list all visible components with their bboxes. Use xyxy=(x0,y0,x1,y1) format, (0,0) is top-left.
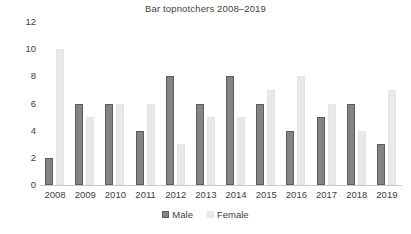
x-axis: 2008200920102011201220132014201520162017… xyxy=(40,188,402,204)
y-axis-tick-label: 4 xyxy=(0,126,36,136)
legend-swatch-male-icon xyxy=(162,211,169,218)
x-axis-tick-label: 2010 xyxy=(100,188,130,202)
x-axis-tick-label: 2015 xyxy=(251,188,281,202)
x-axis-tick-label: 2018 xyxy=(342,188,372,202)
bar-female-2011[interactable] xyxy=(147,104,155,186)
bar-male-2009[interactable] xyxy=(75,104,83,186)
bar-male-2012[interactable] xyxy=(166,76,174,185)
x-axis-tick-label: 2013 xyxy=(191,188,221,202)
bar-group xyxy=(221,22,251,185)
y-axis-tick-label: 8 xyxy=(0,71,36,81)
chart-legend: MaleFemale xyxy=(0,209,411,220)
bar-male-2016[interactable] xyxy=(286,131,294,185)
y-axis-tick-label: 10 xyxy=(0,44,36,54)
bar-group xyxy=(342,22,372,185)
bar-female-2017[interactable] xyxy=(328,104,336,186)
legend-label: Male xyxy=(172,209,193,220)
bar-group xyxy=(281,22,311,185)
bar-female-2015[interactable] xyxy=(267,90,275,185)
legend-swatch-female-icon xyxy=(207,211,214,218)
bar-group xyxy=(372,22,402,185)
bar-male-2011[interactable] xyxy=(136,131,144,185)
y-axis-tick-label: 2 xyxy=(0,153,36,163)
plot-area xyxy=(40,22,402,185)
bar-male-2018[interactable] xyxy=(347,104,355,186)
bar-chart: Bar topnotchers 2008–2019 024681012 2008… xyxy=(0,0,411,234)
bar-female-2009[interactable] xyxy=(86,117,94,185)
x-axis-line xyxy=(40,185,402,186)
x-axis-tick-label: 2012 xyxy=(161,188,191,202)
bar-group xyxy=(251,22,281,185)
bar-male-2015[interactable] xyxy=(256,104,264,186)
bar-female-2013[interactable] xyxy=(207,117,215,185)
bar-female-2019[interactable] xyxy=(388,90,396,185)
y-axis-tick-label: 12 xyxy=(0,17,36,27)
legend-label: Female xyxy=(217,209,249,220)
bar-female-2010[interactable] xyxy=(116,104,124,186)
x-axis-tick-label: 2016 xyxy=(281,188,311,202)
bar-male-2014[interactable] xyxy=(226,76,234,185)
bar-female-2018[interactable] xyxy=(358,131,366,185)
bar-male-2013[interactable] xyxy=(196,104,204,186)
bar-male-2017[interactable] xyxy=(317,117,325,185)
y-axis: 024681012 xyxy=(0,22,36,185)
bar-male-2019[interactable] xyxy=(377,144,385,185)
bar-female-2014[interactable] xyxy=(237,117,245,185)
bar-group xyxy=(161,22,191,185)
x-axis-tick-label: 2019 xyxy=(372,188,402,202)
y-axis-tick-label: 0 xyxy=(0,180,36,190)
bar-group xyxy=(40,22,70,185)
x-axis-tick-label: 2017 xyxy=(312,188,342,202)
chart-title: Bar topnotchers 2008–2019 xyxy=(0,3,411,14)
bar-group xyxy=(191,22,221,185)
bar-group xyxy=(131,22,161,185)
bar-female-2016[interactable] xyxy=(297,76,305,185)
bar-male-2008[interactable] xyxy=(45,158,53,185)
x-axis-tick-label: 2014 xyxy=(221,188,251,202)
bar-female-2008[interactable] xyxy=(56,49,64,185)
x-axis-tick-label: 2011 xyxy=(131,188,161,202)
legend-item-female[interactable]: Female xyxy=(207,209,249,220)
legend-item-male[interactable]: Male xyxy=(162,209,193,220)
bar-group xyxy=(70,22,100,185)
bar-group xyxy=(100,22,130,185)
bar-male-2010[interactable] xyxy=(105,104,113,186)
y-axis-tick-label: 6 xyxy=(0,99,36,109)
bar-female-2012[interactable] xyxy=(177,144,185,185)
x-axis-tick-label: 2008 xyxy=(40,188,70,202)
bar-group xyxy=(312,22,342,185)
x-axis-tick-label: 2009 xyxy=(70,188,100,202)
